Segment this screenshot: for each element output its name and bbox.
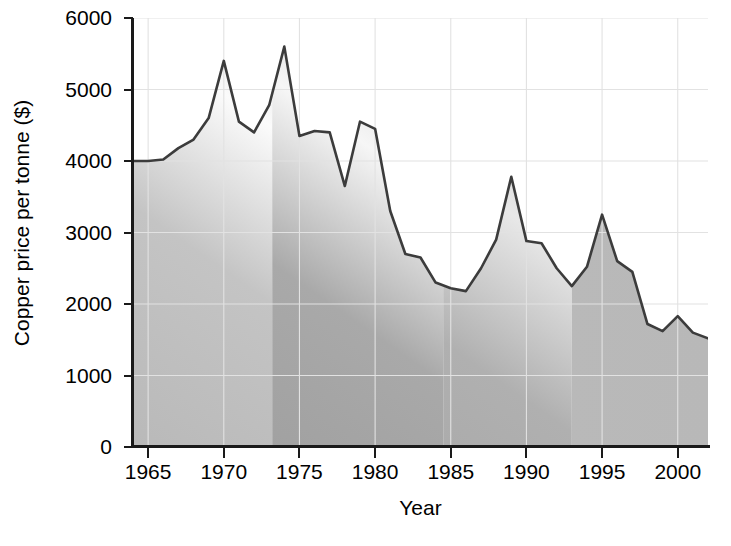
- y-axis-tick: [124, 303, 133, 305]
- y-axis-tick-label: 4000: [42, 150, 112, 171]
- x-axis-line: [131, 445, 710, 448]
- x-axis-tick-label: 1985: [411, 461, 491, 482]
- x-axis-tick: [677, 448, 679, 458]
- x-axis-tick-label: 1965: [108, 461, 188, 482]
- y-axis-tick-label: 2000: [42, 293, 112, 314]
- y-axis-tick: [124, 375, 133, 377]
- x-axis-tick: [601, 448, 603, 458]
- y-axis-tick-label: 5000: [42, 79, 112, 100]
- y-axis-tick-label: 1000: [42, 365, 112, 386]
- y-axis-tick: [124, 17, 133, 19]
- y-axis-tick: [124, 232, 133, 234]
- area-chart-svg: [133, 18, 708, 447]
- y-axis-tick-label: 6000: [42, 7, 112, 28]
- y-axis-title: Copper price per tonne ($): [6, 0, 38, 446]
- y-axis-tick-label: 0: [42, 436, 112, 457]
- y-axis-tick: [124, 160, 133, 162]
- x-axis-tick: [450, 448, 452, 458]
- x-axis-tick: [525, 448, 527, 458]
- area-fill-group: [133, 47, 708, 447]
- y-axis-tick-label: 3000: [42, 222, 112, 243]
- x-axis-tick: [374, 448, 376, 458]
- x-axis-tick-label: 1970: [184, 461, 264, 482]
- x-axis-tick-label: 1990: [486, 461, 566, 482]
- x-axis-tick: [147, 448, 149, 458]
- x-axis-tick-label: 1980: [335, 461, 415, 482]
- x-axis-tick: [223, 448, 225, 458]
- x-axis-title: Year: [133, 496, 708, 520]
- y-axis-tick: [124, 446, 133, 448]
- x-axis-tick-label: 1975: [259, 461, 339, 482]
- y-axis-tick: [124, 89, 133, 91]
- chart-figure: Copper price per tonne ($): [0, 0, 731, 546]
- x-axis-tick-label: 2000: [638, 461, 718, 482]
- plot-area: [133, 18, 708, 447]
- x-axis-tick-label: 1995: [562, 461, 642, 482]
- x-axis-tick: [298, 448, 300, 458]
